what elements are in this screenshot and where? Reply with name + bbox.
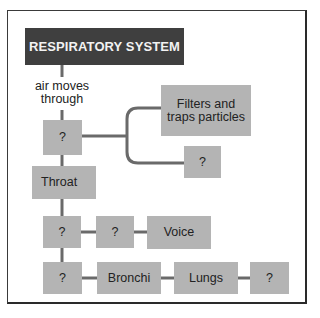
node-filters: Filters and traps particles	[161, 85, 251, 136]
title-box: RESPIRATORY SYSTEM	[25, 28, 184, 65]
node-lungs: Lungs	[174, 262, 238, 294]
connector-label-line-2: through	[26, 93, 98, 106]
node-bronchi: Bronchi	[97, 262, 161, 294]
filters-line-1: Filters and	[177, 98, 235, 111]
node-function-unknown: ?	[184, 146, 221, 178]
node-voice: Voice	[147, 216, 211, 249]
filters-line-2: traps particles	[167, 111, 245, 124]
node-nose-unknown: ?	[43, 120, 82, 155]
node-throat: Throat	[32, 166, 96, 199]
connector-label: air moves through	[26, 80, 98, 106]
node-row4-unknown-2: ?	[250, 262, 289, 294]
node-row3-unknown-2: ?	[96, 216, 134, 248]
node-row3-unknown-1: ?	[43, 216, 81, 248]
node-row4-unknown-1: ?	[43, 262, 82, 294]
